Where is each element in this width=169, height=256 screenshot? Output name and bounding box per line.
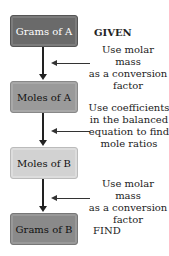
pointer-line xyxy=(56,198,90,199)
box-moles-of-b: Moles of B xyxy=(10,147,78,179)
find-tag: FIND xyxy=(93,225,121,236)
arrow-head-down-icon xyxy=(39,74,47,80)
arrow-head-down-icon xyxy=(39,140,47,146)
flow-arrow-2 xyxy=(42,113,44,141)
box-grams-of-b: Grams of B xyxy=(10,213,78,245)
box-label: Grams of B xyxy=(16,224,73,235)
box-grams-of-a: Grams of A xyxy=(10,15,78,47)
pointer-line xyxy=(56,63,90,64)
box-label: Moles of A xyxy=(17,92,71,103)
pointer-line xyxy=(56,131,90,132)
step-1-label: Use molar mass as a conversion factor xyxy=(88,44,168,92)
arrow-head-down-icon xyxy=(39,206,47,212)
flow-arrow-3 xyxy=(42,179,44,207)
box-moles-of-a: Moles of A xyxy=(10,81,78,113)
step-2-label: Use coefficients in the balanced equatio… xyxy=(88,102,169,150)
box-label: Grams of A xyxy=(16,26,73,37)
given-tag: GIVEN xyxy=(94,27,132,38)
flow-arrow-1 xyxy=(42,47,44,75)
box-label: Moles of B xyxy=(17,158,71,169)
step-3-label: Use molar mass as a conversion factor xyxy=(88,178,168,226)
